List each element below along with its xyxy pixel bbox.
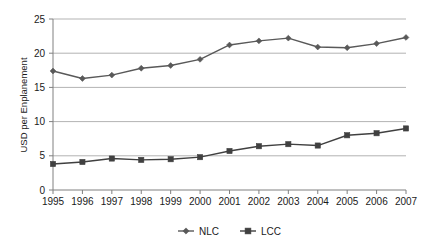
x-axis-tick-label: 2002: [248, 196, 271, 207]
x-axis-tick-label: 1999: [160, 196, 183, 207]
x-axis-tick-label: 2003: [277, 196, 300, 207]
x-axis-tick-label: 2000: [189, 196, 212, 207]
x-axis-tick-label: 1995: [42, 196, 65, 207]
x-axis-tick-label: 2004: [307, 196, 330, 207]
x-axis-tick-label: 2005: [336, 196, 359, 207]
chart-background: [0, 0, 421, 247]
data-point-marker: [403, 126, 408, 131]
data-point-marker: [109, 156, 114, 161]
line-chart-figure: 0510152025 19951996199719981999200020012…: [0, 0, 421, 247]
data-point-marker: [286, 142, 291, 147]
x-axis-tick-label: 1996: [71, 196, 94, 207]
chart-canvas: 0510152025 19951996199719981999200020012…: [0, 0, 421, 247]
data-point-marker: [50, 161, 55, 166]
x-axis-tick-label: 2001: [218, 196, 241, 207]
data-point-marker: [80, 159, 85, 164]
legend-label: NLC: [199, 226, 219, 237]
data-point-marker: [168, 157, 173, 162]
y-axis-tick-label: 15: [34, 82, 46, 93]
y-axis-tick-label: 5: [39, 150, 45, 161]
y-axis-tick-label: 10: [34, 116, 46, 127]
data-point-marker: [345, 133, 350, 138]
y-axis-tick-label: 25: [34, 14, 46, 25]
data-point-marker: [227, 148, 232, 153]
data-point-marker: [315, 143, 320, 148]
x-axis-tick-label: 2006: [365, 196, 388, 207]
data-point-marker: [197, 155, 202, 160]
x-axis-tick-label: 1998: [130, 196, 153, 207]
data-point-marker: [139, 157, 144, 162]
y-axis-tick-label: 20: [34, 48, 46, 59]
data-point-marker: [256, 144, 261, 149]
x-axis-tick-label: 1997: [101, 196, 124, 207]
x-axis-tick-label: 2007: [395, 196, 418, 207]
legend-label: LCC: [261, 226, 281, 237]
y-axis-title: USD per Enplanement: [18, 57, 29, 152]
y-axis-tick-label: 0: [39, 185, 45, 196]
data-point-marker: [374, 131, 379, 136]
square-marker: [245, 228, 251, 234]
